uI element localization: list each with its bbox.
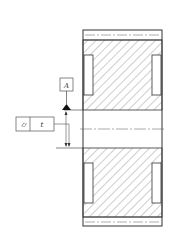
upper-section-hatch (83, 40, 162, 110)
datum-triangle-icon (62, 104, 71, 110)
dimension-arrows (65, 111, 71, 147)
datum-a-marker: A (60, 78, 73, 110)
tolerance-value: t (41, 121, 44, 129)
tolerance-frame: ⌭ t (16, 117, 69, 132)
lower-section-hatch (83, 148, 162, 217)
technical-drawing: A ⌭ t (0, 0, 179, 250)
datum-label: A (63, 82, 69, 90)
